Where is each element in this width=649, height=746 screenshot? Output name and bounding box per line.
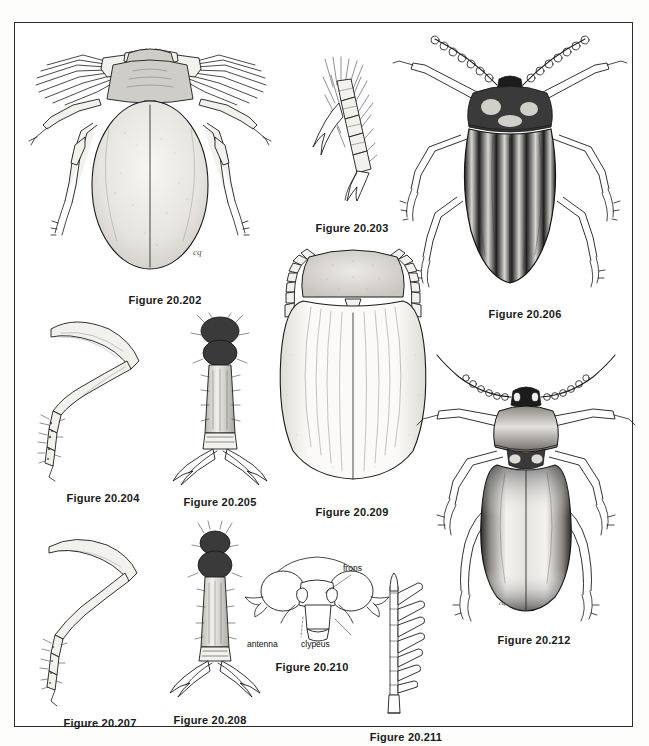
figure-20-206-caption: Figure 20.206 [479,308,571,320]
figure-20-211-illustration [370,571,440,721]
head-label-antenna: antenna [247,639,278,649]
figure-20-211-caption: Figure 20.211 [360,731,452,743]
head-label-frons: frons [343,563,362,573]
figure-20-209-caption: Figure 20.209 [306,506,398,518]
figure-plate: cq Figure 20.202 [0,0,649,746]
figure-20-208-caption: Figure 20.208 [164,714,256,726]
figure-20-204-illustration [35,303,145,483]
figure-20-207-illustration [35,523,145,708]
figure-20-207-caption: Figure 20.207 [54,717,146,729]
figure-20-202-illustration: cq [25,33,275,283]
plate-border: cq Figure 20.202 [14,22,633,727]
artist-signature-212: cq [499,599,506,607]
figure-20-203-illustration [299,51,399,201]
figure-20-210-caption: Figure 20.210 [266,661,358,673]
figure-20-212-illustration: cq [411,353,641,628]
figure-20-212-caption: Figure 20.212 [488,634,580,646]
artist-signature: cq [193,247,202,257]
figure-20-204-caption: Figure 20.204 [57,492,149,504]
figure-20-205-illustration [165,313,275,488]
head-label-clypeus: clypeus [301,639,330,649]
figure-20-205-caption: Figure 20.205 [174,496,266,508]
